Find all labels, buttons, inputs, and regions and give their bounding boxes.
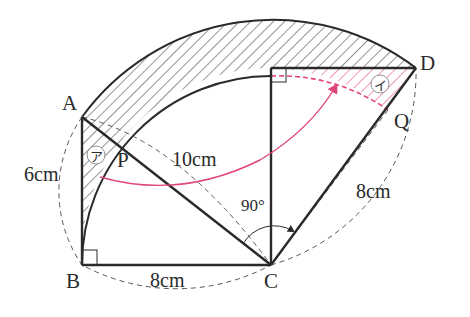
side-cd bbox=[271, 68, 416, 265]
rotation-arrow bbox=[243, 226, 293, 244]
pink-hatched-region-b bbox=[271, 68, 416, 110]
point-b-label: B bbox=[66, 269, 80, 293]
side-ac bbox=[82, 117, 271, 265]
region-b-label: イ bbox=[374, 78, 387, 93]
right-angle-b bbox=[82, 250, 97, 265]
point-a-label: A bbox=[62, 91, 78, 115]
point-d-label: D bbox=[420, 51, 435, 75]
point-q-label: Q bbox=[394, 109, 409, 133]
dim-cd-label: 8cm bbox=[356, 180, 391, 202]
dim-ac-label: 10cm bbox=[172, 148, 217, 170]
point-c-label: C bbox=[264, 269, 278, 293]
angle-label: 90° bbox=[241, 196, 265, 215]
dim-ab-label: 6cm bbox=[24, 163, 59, 185]
region-a-label: ア bbox=[90, 149, 103, 164]
right-angle-top bbox=[271, 68, 286, 82]
dim-bc-label: 8cm bbox=[150, 269, 185, 291]
point-p-label: P bbox=[117, 148, 129, 172]
geometry-figure: ア イ A B C D P Q 6cm 8cm 10cm 8cm 90° bbox=[0, 0, 470, 317]
